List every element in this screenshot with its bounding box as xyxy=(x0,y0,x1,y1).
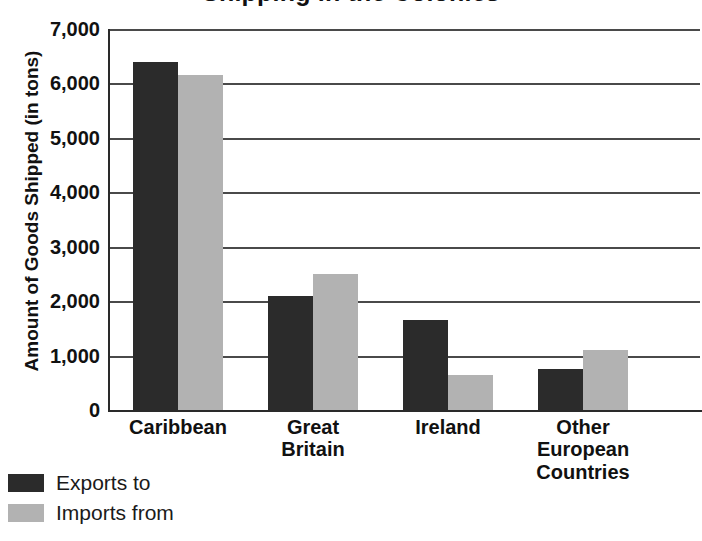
bar xyxy=(583,350,628,410)
category-label-line: Great xyxy=(251,416,375,438)
chart-title: Shipping in the Colonies xyxy=(0,0,702,7)
y-axis-line xyxy=(108,29,110,412)
category-label-line: Other xyxy=(521,416,645,438)
category-label-line: European xyxy=(521,438,645,460)
legend-item: Exports to xyxy=(8,468,174,498)
bar xyxy=(178,75,223,410)
bar xyxy=(313,274,358,410)
y-axis-tick-label: 5,000 xyxy=(2,126,100,149)
y-axis-tick-label: 7,000 xyxy=(2,18,100,41)
y-axis-tick-label: 6,000 xyxy=(2,72,100,95)
bar-chart: Shipping in the Colonies Amount of Goods… xyxy=(0,0,702,541)
bar xyxy=(538,369,583,410)
x-axis-category-label: Caribbean xyxy=(116,416,240,438)
y-axis-tick-label: 1,000 xyxy=(2,344,100,367)
x-axis-category-label: OtherEuropeanCountries xyxy=(521,416,645,483)
bar xyxy=(133,62,178,410)
x-axis-category-label: Ireland xyxy=(386,416,510,438)
bar xyxy=(268,296,313,410)
legend-label: Imports from xyxy=(56,501,174,525)
category-label-line: Countries xyxy=(521,461,645,483)
category-label-line: Caribbean xyxy=(116,416,240,438)
legend-item: Imports from xyxy=(8,498,174,528)
gridline xyxy=(108,29,700,31)
legend-label: Exports to xyxy=(56,471,151,495)
category-label-line: Britain xyxy=(251,438,375,460)
chart-legend: Exports toImports from xyxy=(8,468,174,528)
y-axis-tick-label: 4,000 xyxy=(2,181,100,204)
y-axis-tick-label: 0 xyxy=(2,399,100,422)
y-axis-tick-label: 3,000 xyxy=(2,235,100,258)
x-axis-category-label: GreatBritain xyxy=(251,416,375,461)
category-label-line: Ireland xyxy=(386,416,510,438)
y-axis-tick-label: 2,000 xyxy=(2,290,100,313)
x-axis-line xyxy=(108,410,702,412)
bar xyxy=(448,375,493,410)
y-axis-tick-labels: 7,0006,0005,0004,0003,0002,0001,0000 xyxy=(0,0,100,541)
bar xyxy=(403,320,448,410)
legend-swatch-icon xyxy=(8,474,44,492)
legend-swatch-icon xyxy=(8,504,44,522)
